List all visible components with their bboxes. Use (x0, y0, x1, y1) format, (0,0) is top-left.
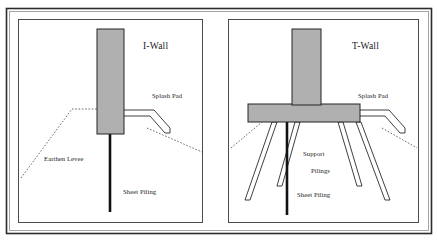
label-support-pilings-line2: Pilings (311, 167, 330, 174)
label-sheet-piling-t-wall: Sheet Piling (297, 191, 331, 198)
label-earthen-levee: Earthen Levee (44, 155, 84, 162)
i-wall-stem (97, 29, 124, 134)
panel-i-wall: I-Wall Splash Pad Earthen Levee Sheet Pi… (19, 20, 203, 223)
label-support-pilings-line1: Support (303, 150, 325, 157)
panel-t-wall: T-Wall Splash Pad Support Pilings Sheet … (229, 20, 419, 223)
panel-title-t-wall: T-Wall (352, 41, 379, 51)
label-splash-pad-i-wall: Splash Pad (152, 92, 183, 99)
label-sheet-piling-i-wall: Sheet Piling (123, 188, 157, 195)
t-wall-stem (292, 29, 321, 105)
diagram-canvas: I-Wall Splash Pad Earthen Levee Sheet Pi… (0, 0, 438, 242)
label-splash-pad-t-wall: Splash Pad (358, 92, 389, 99)
floodwall-comparison-figure: I-Wall Splash Pad Earthen Levee Sheet Pi… (0, 0, 438, 242)
t-wall-base-slab (248, 104, 360, 122)
panel-title-i-wall: I-Wall (143, 41, 168, 51)
